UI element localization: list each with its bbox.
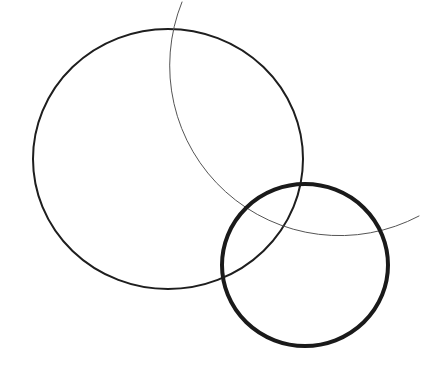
thin-arc (170, 2, 419, 236)
large-circle (33, 29, 303, 289)
circle-diagram (0, 0, 422, 367)
diagram-canvas (0, 0, 422, 367)
